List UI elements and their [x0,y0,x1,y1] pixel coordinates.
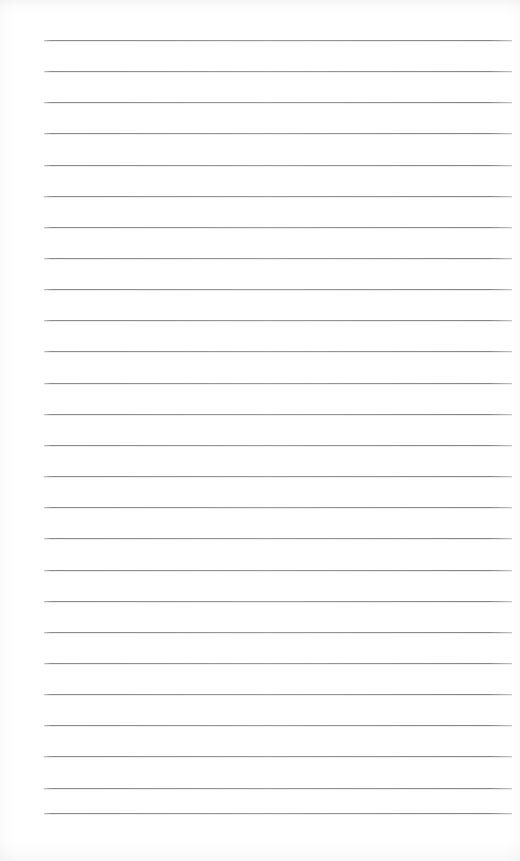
rule-line [44,414,512,415]
rule-line [44,694,512,695]
rule-line [44,289,512,290]
rule-line [44,133,512,134]
rule-line [44,570,512,571]
rule-line [44,351,512,352]
rule-line [44,196,512,197]
rule-line [44,507,512,508]
rule-line [44,813,512,814]
rule-line [44,538,512,539]
rule-line [44,102,512,103]
rule-line [44,756,512,757]
lined-paper-page [0,0,520,861]
rule-line [44,601,512,602]
rule-line [44,632,512,633]
rule-line [44,40,512,41]
rule-line [44,788,512,789]
rule-line [44,258,512,259]
rule-line [44,476,512,477]
rule-line [44,227,512,228]
rule-line [44,445,512,446]
rule-line [44,725,512,726]
rule-line [44,320,512,321]
rule-line [44,71,512,72]
ruled-lines-group [0,0,520,861]
rule-line [44,383,512,384]
rule-line [44,165,512,166]
rule-line [44,663,512,664]
